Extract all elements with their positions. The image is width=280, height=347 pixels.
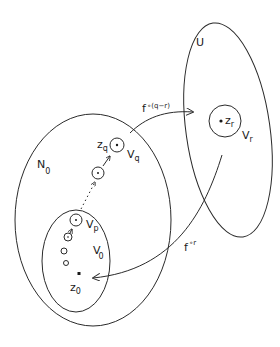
arrow-to-vq — [103, 156, 110, 166]
neighborhood-intermediate — [92, 167, 104, 179]
arrow-f-r-label: f∘r — [184, 239, 196, 254]
region-n0-label: N0 — [37, 158, 50, 176]
point-zr-dot — [219, 119, 222, 122]
neighborhood-vr-label: Vr — [242, 129, 254, 144]
arrow-f-q-minus-r-label: f∘(q−r) — [142, 102, 170, 115]
neighborhood-vp: Vp — [70, 214, 99, 233]
neighborhood-vr: zr Vr — [209, 105, 254, 144]
orbit-neighborhoods — [61, 229, 72, 266]
point-zq-dot — [116, 144, 118, 146]
arrow-f-r: f∘r — [93, 155, 222, 278]
point-z0-label: z0 — [70, 281, 81, 296]
diagram-canvas: U N0 V0 zr Vr zq Vq — [0, 0, 280, 347]
dotted-iteration-arrow — [81, 182, 95, 209]
point-zr-label: zr — [225, 114, 235, 129]
region-u: U — [171, 17, 280, 243]
region-u-label: U — [196, 36, 204, 49]
region-v0-label: V0 — [93, 244, 104, 261]
region-v0: V0 — [42, 210, 110, 312]
neighborhood-vq: zq Vq — [97, 138, 140, 163]
neighborhood-vq-label: Vq — [127, 148, 140, 163]
point-z0: z0 — [70, 272, 81, 296]
point-z0-dot — [78, 272, 81, 275]
point-zq-label: zq — [97, 138, 108, 153]
